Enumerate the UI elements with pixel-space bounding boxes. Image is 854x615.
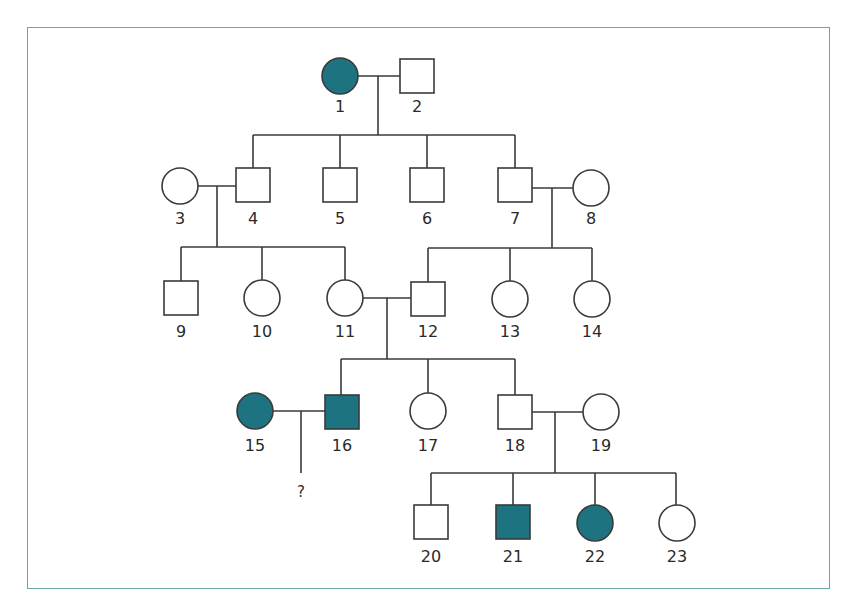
label-8: 8 [586,209,596,228]
individual-4-male [236,168,270,202]
individual-15-affected-female [237,393,273,429]
individual-17-female [410,393,446,429]
individual-10-female [244,280,280,316]
label-23: 23 [667,547,687,566]
label-10: 10 [252,322,272,341]
label-16: 16 [332,436,352,455]
individual-3-female [162,168,198,204]
individual-6-male [410,168,444,202]
label-20: 20 [421,547,441,566]
individual-2-male [400,59,434,93]
label-6: 6 [422,209,432,228]
label-11: 11 [335,322,355,341]
individual-21-affected-male [496,505,530,539]
individual-1-affected-female [322,58,358,94]
individual-22-affected-female [577,505,613,541]
individual-18-male [498,395,532,429]
individual-11-female [327,280,363,316]
label-2: 2 [412,97,422,116]
label-7: 7 [510,209,520,228]
label-5: 5 [335,209,345,228]
label-3: 3 [175,209,185,228]
label-9: 9 [176,322,186,341]
label-13: 13 [500,322,520,341]
individual-14-female [574,281,610,317]
label-14: 14 [582,322,602,341]
individual-19-female [583,394,619,430]
individuals [162,58,695,541]
label-12: 12 [418,322,438,341]
label-4: 4 [248,209,258,228]
individual-7-male [498,168,532,202]
individual-13-female [492,281,528,317]
pedigree-chart: 1 2 3 4 5 6 7 8 9 10 11 12 13 14 15 16 1… [0,0,854,615]
unknown-offspring-label: ? [297,483,305,501]
label-1: 1 [335,97,345,116]
individual-12-male [411,282,445,316]
individual-20-male [414,505,448,539]
individual-9-male [164,281,198,315]
label-21: 21 [503,547,523,566]
individual-23-female [659,505,695,541]
label-19: 19 [591,436,611,455]
label-15: 15 [245,436,265,455]
individual-8-female [573,170,609,206]
individual-16-affected-male [325,395,359,429]
individual-5-male [323,168,357,202]
label-17: 17 [418,436,438,455]
label-18: 18 [505,436,525,455]
label-22: 22 [585,547,605,566]
